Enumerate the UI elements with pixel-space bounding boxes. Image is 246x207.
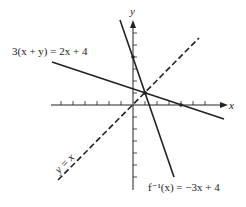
line-y-equals-x xyxy=(58,38,199,180)
point-4-0 xyxy=(179,103,183,107)
line-f-inverse xyxy=(120,20,174,177)
line3-label: y = x xyxy=(51,151,76,176)
line2-label: f⁻¹(x) = −3x + 4 xyxy=(148,181,220,194)
y-axis-arrow-icon xyxy=(130,20,136,28)
x-axis xyxy=(51,101,228,108)
y-axis-label: y xyxy=(129,5,135,17)
line1-label: 3(x + y) = 2x + 4 xyxy=(12,45,88,58)
point-intersection xyxy=(143,91,147,95)
x-axis-arrow-icon xyxy=(220,102,228,108)
point-0-4 xyxy=(131,55,135,59)
graph: y x 3(x + y) = 2x + 4 f⁻¹(x) = −3x + 4 y… xyxy=(0,0,246,207)
x-axis-label: x xyxy=(228,99,234,111)
